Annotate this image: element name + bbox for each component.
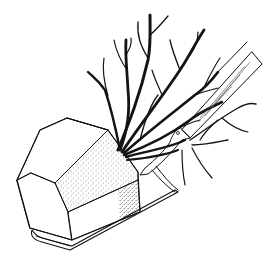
right-branches <box>182 104 256 185</box>
spade-handle <box>182 42 262 138</box>
shrub-on-spade-illustration <box>0 0 277 271</box>
